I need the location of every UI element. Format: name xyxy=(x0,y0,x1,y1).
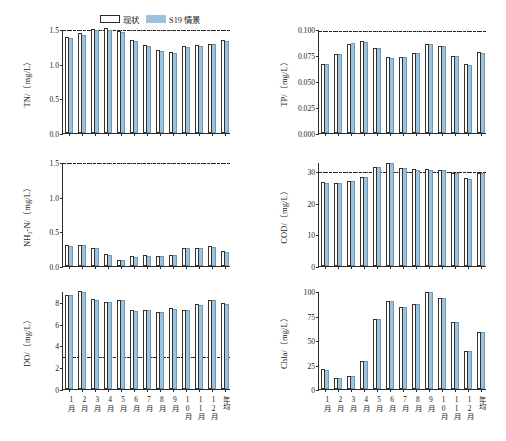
x-axis-label-chla-2: 3月 xyxy=(344,395,357,419)
x-tick-chla-3 xyxy=(364,389,365,392)
y-tick-label-chla-2: 50 xyxy=(307,337,315,346)
bar-group-chla-9 xyxy=(438,298,446,389)
x-axis-label-chla-4: 5月 xyxy=(370,395,383,419)
bar-group-chla-0 xyxy=(321,369,329,389)
x-tick-chla-8 xyxy=(429,389,430,392)
x-tick-chla-5 xyxy=(390,389,391,392)
x-axis-label-chla-9: 10月 xyxy=(434,395,447,419)
bar-s19-chla-10 xyxy=(455,322,459,389)
bar-group-chla-8 xyxy=(425,292,433,389)
x-axis-label-chla-6: 7月 xyxy=(396,395,409,419)
y-tick-label-chla-4: 100 xyxy=(304,288,315,297)
bar-group-chla-4 xyxy=(373,319,381,389)
bar-s19-chla-6 xyxy=(403,307,407,389)
bar-group-chla-3 xyxy=(360,361,368,389)
x-tick-chla-7 xyxy=(416,389,417,392)
x-axis-label-chla-11: 12月 xyxy=(460,395,473,419)
bar-s19-chla-8 xyxy=(429,292,433,389)
bar-s19-chla-3 xyxy=(364,361,368,389)
y-tick-chla-1 xyxy=(316,366,319,367)
y-tick-chla-0 xyxy=(316,390,319,391)
bar-group-chla-12 xyxy=(477,332,485,389)
bar-group-chla-6 xyxy=(399,307,407,389)
x-tick-chla-9 xyxy=(442,389,443,392)
x-axis-label-chla-1: 2月 xyxy=(331,395,344,419)
x-tick-chla-6 xyxy=(403,389,404,392)
y-tick-label-chla-3: 75 xyxy=(307,312,315,321)
y-tick-label-chla-1: 25 xyxy=(307,361,315,370)
figure-root: 现状 S19 情景 TN/（mg/L）0.00.51.01.5TP/（mg/L）… xyxy=(0,0,506,441)
bar-s19-chla-7 xyxy=(416,304,420,389)
bar-s19-chla-1 xyxy=(338,378,342,389)
bar-group-chla-1 xyxy=(334,378,342,389)
x-tick-chla-1 xyxy=(338,389,339,392)
x-axis-label-chla-10: 11月 xyxy=(447,395,460,419)
bar-s19-chla-2 xyxy=(351,376,355,389)
x-axis-label-chla-8: 9月 xyxy=(421,395,434,419)
x-axis-label-chla-12: 年均 xyxy=(473,395,486,419)
bar-group-chla-10 xyxy=(451,322,459,389)
axis-label-y-chla: Chla/（mg/L） xyxy=(277,313,289,369)
bar-s19-chla-5 xyxy=(390,301,394,389)
bar-group-chla-7 xyxy=(412,304,420,389)
bar-s19-chla-12 xyxy=(481,332,485,389)
y-tick-chla-4 xyxy=(316,292,319,293)
chart-panel-chla: Chla/（mg/L）02550751001月2月3月4月5月6月7月8月9月1… xyxy=(0,0,506,441)
x-axis-labels-chla: 1月2月3月4月5月6月7月8月9月10月11月12月年均 xyxy=(318,395,486,419)
x-tick-chla-2 xyxy=(351,389,352,392)
x-tick-chla-4 xyxy=(377,389,378,392)
plot-area-chla: 0255075100 xyxy=(318,292,486,390)
bar-s19-chla-0 xyxy=(325,370,329,389)
x-tick-chla-12 xyxy=(481,389,482,392)
bar-group-chla-2 xyxy=(347,376,355,389)
bar-s19-chla-11 xyxy=(468,351,472,389)
bar-s19-chla-9 xyxy=(442,298,446,389)
x-axis-label-chla-3: 4月 xyxy=(357,395,370,419)
x-axis-label-chla-7: 8月 xyxy=(408,395,421,419)
bar-group-chla-11 xyxy=(464,351,472,389)
x-axis-label-chla-0: 1月 xyxy=(318,395,331,419)
x-tick-chla-0 xyxy=(325,389,326,392)
y-tick-label-chla-0: 0 xyxy=(311,386,315,395)
y-tick-chla-3 xyxy=(316,317,319,318)
bar-s19-chla-4 xyxy=(377,319,381,389)
x-tick-chla-10 xyxy=(455,389,456,392)
y-tick-chla-2 xyxy=(316,341,319,342)
x-tick-chla-11 xyxy=(468,389,469,392)
x-axis-label-chla-5: 6月 xyxy=(383,395,396,419)
bar-group-chla-5 xyxy=(386,301,394,389)
